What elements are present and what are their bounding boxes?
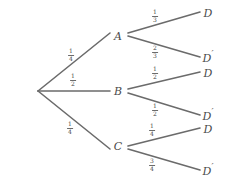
fraction-denominator: 2 bbox=[152, 73, 158, 81]
tree-edges bbox=[0, 0, 225, 182]
edge-a-to-d bbox=[128, 12, 200, 33]
node-label-c-dprime: D′ bbox=[203, 163, 214, 177]
prime-mark: ′ bbox=[211, 162, 213, 172]
fraction-numerator: 3 bbox=[149, 158, 155, 165]
node-label-c: C bbox=[114, 141, 122, 152]
edge-probability-b-dprime: 1 2 bbox=[152, 103, 158, 117]
outcome-letter: D bbox=[204, 123, 213, 136]
edge-probability-root-c: 1 4 bbox=[67, 121, 73, 135]
outcome-letter: D bbox=[204, 7, 213, 20]
node-label-b-dprime: D′ bbox=[203, 108, 214, 122]
fraction-denominator: 3 bbox=[152, 52, 158, 60]
edge-probability-b-d: 1 2 bbox=[152, 66, 158, 80]
fraction-denominator: 4 bbox=[68, 55, 74, 63]
prime-mark: ′ bbox=[211, 49, 213, 59]
outcome-letter: D bbox=[203, 52, 212, 65]
node-label-c-d: D bbox=[204, 124, 213, 135]
probability-tree-diagram: A B C 1 4 1 2 1 4 D D′ D D′ D D′ 1 3 2 3… bbox=[0, 0, 225, 182]
edge-a-to-dprime bbox=[128, 36, 200, 57]
prime-mark: ′ bbox=[211, 107, 213, 117]
edge-b-to-d bbox=[128, 72, 200, 89]
edge-probability-a-d: 1 3 bbox=[152, 9, 158, 23]
node-label-b: B bbox=[114, 86, 122, 97]
edge-probability-a-dprime: 2 3 bbox=[152, 45, 158, 59]
outcome-letter: D bbox=[203, 110, 212, 123]
edge-probability-root-a: 1 4 bbox=[68, 48, 74, 62]
node-label-b-d: D bbox=[204, 68, 213, 79]
outcome-letter: D bbox=[203, 165, 212, 178]
fraction-numerator: 2 bbox=[152, 45, 158, 52]
edge-probability-c-dprime: 3 4 bbox=[149, 158, 155, 172]
edge-probability-root-b: 1 2 bbox=[70, 73, 76, 87]
edge-c-to-d bbox=[128, 128, 200, 146]
node-label-a-dprime: D′ bbox=[203, 50, 214, 64]
fraction-denominator: 2 bbox=[70, 80, 76, 88]
outcome-letter: D bbox=[204, 67, 213, 80]
fraction-denominator: 4 bbox=[149, 165, 155, 173]
node-label-a: A bbox=[114, 31, 122, 42]
fraction-denominator: 4 bbox=[149, 130, 155, 138]
edge-root-to-c bbox=[38, 91, 110, 149]
edge-c-to-dprime bbox=[128, 149, 200, 170]
fraction-denominator: 4 bbox=[67, 128, 73, 136]
edge-b-to-dprime bbox=[128, 93, 200, 115]
fraction-denominator: 2 bbox=[152, 110, 158, 118]
fraction-denominator: 3 bbox=[152, 16, 158, 24]
edge-probability-c-d: 1 4 bbox=[149, 123, 155, 137]
node-label-a-d: D bbox=[204, 8, 213, 19]
